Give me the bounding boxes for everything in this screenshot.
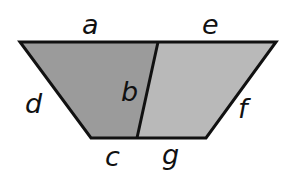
label-b: b bbox=[121, 76, 138, 107]
label-f: f bbox=[238, 93, 251, 124]
label-c: c bbox=[105, 141, 120, 172]
label-e: e bbox=[202, 9, 219, 40]
label-a: a bbox=[82, 9, 99, 40]
label-g: g bbox=[162, 139, 179, 170]
label-d: d bbox=[25, 88, 43, 119]
trapezoid-diagram: a e b d f c g bbox=[0, 0, 288, 178]
right-region bbox=[137, 42, 276, 138]
